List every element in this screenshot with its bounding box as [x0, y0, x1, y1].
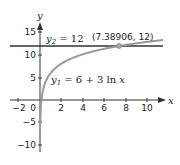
y-tick-label: −5 — [23, 117, 36, 127]
y-tick-label: 5 — [30, 73, 36, 83]
y-tick-label: 10 — [25, 50, 37, 60]
y-tick-label: 15 — [25, 27, 36, 37]
y1-label: y1 = 6 + 3 ln x — [50, 74, 125, 87]
intersection-point — [117, 44, 122, 49]
y-axis-label: y — [36, 10, 43, 21]
x-tick-label: 10 — [141, 103, 153, 113]
x-tick-label: 8 — [123, 103, 129, 113]
intersection-label: (7.38906, 12) — [92, 32, 153, 42]
x-tick-label: 0 — [30, 103, 36, 113]
x-tick-label: 6 — [101, 103, 107, 113]
x-tick-label: 2 — [58, 103, 64, 113]
x-axis-arrow-icon — [158, 97, 166, 103]
x-axis-label: x — [168, 95, 174, 106]
x-tick-label: −2 — [12, 103, 25, 113]
y2-label: y2 = 12 — [45, 33, 84, 46]
y-tick-label: −10 — [17, 140, 36, 150]
chart: −2 0 2 4 6 8 10 15 10 5 −5 −10 x y y2 = … — [0, 0, 180, 165]
x-tick-label: 4 — [80, 103, 86, 113]
y-axis-arrow-icon — [37, 22, 43, 30]
